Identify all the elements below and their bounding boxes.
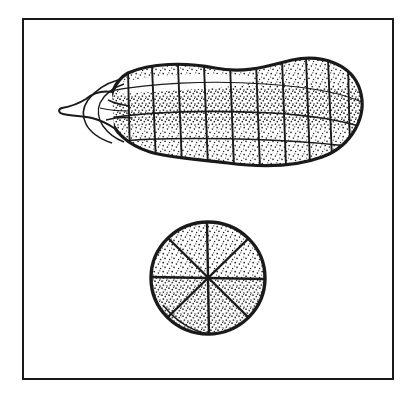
illustration-figure: Squash illustration plate Elongated squa… — [0, 0, 413, 405]
illustration-canvas — [0, 0, 413, 405]
